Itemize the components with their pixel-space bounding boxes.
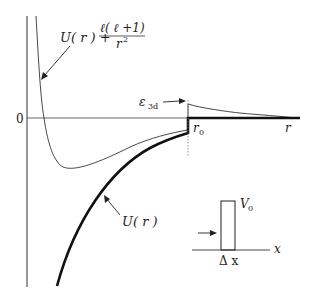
arrowhead-icon	[210, 230, 217, 236]
effective-potential-frac-num: ℓ( ℓ +1)	[100, 21, 145, 35]
zero-label: 0	[16, 112, 24, 126]
energy-level-arrow	[163, 101, 180, 102]
potential-arrow	[106, 198, 120, 215]
x-axis-label: x	[274, 242, 281, 256]
bare-potential-curve	[57, 118, 300, 286]
potential-label: U( r )	[122, 214, 158, 229]
energy-level-label: ε	[139, 95, 145, 109]
effective-potential-frac-den: r	[116, 37, 123, 51]
potential-barrier	[221, 201, 235, 250]
potential-diagram: 0 U( r ) + ℓ( ℓ +1) r 2 ε 3d r 0 r U( r …	[0, 0, 311, 300]
arrowhead-icon	[179, 98, 186, 104]
effective-potential-frac-den-exp: 2	[123, 35, 128, 44]
energy-level-sub: 3d	[148, 102, 158, 111]
r-axis-label: r	[285, 121, 292, 135]
barrier-height-sub: 0	[248, 204, 253, 213]
effective-potential-arrow	[44, 46, 70, 76]
barrier-width-label: Δ x	[219, 254, 238, 268]
r0-sub: 0	[199, 128, 204, 137]
